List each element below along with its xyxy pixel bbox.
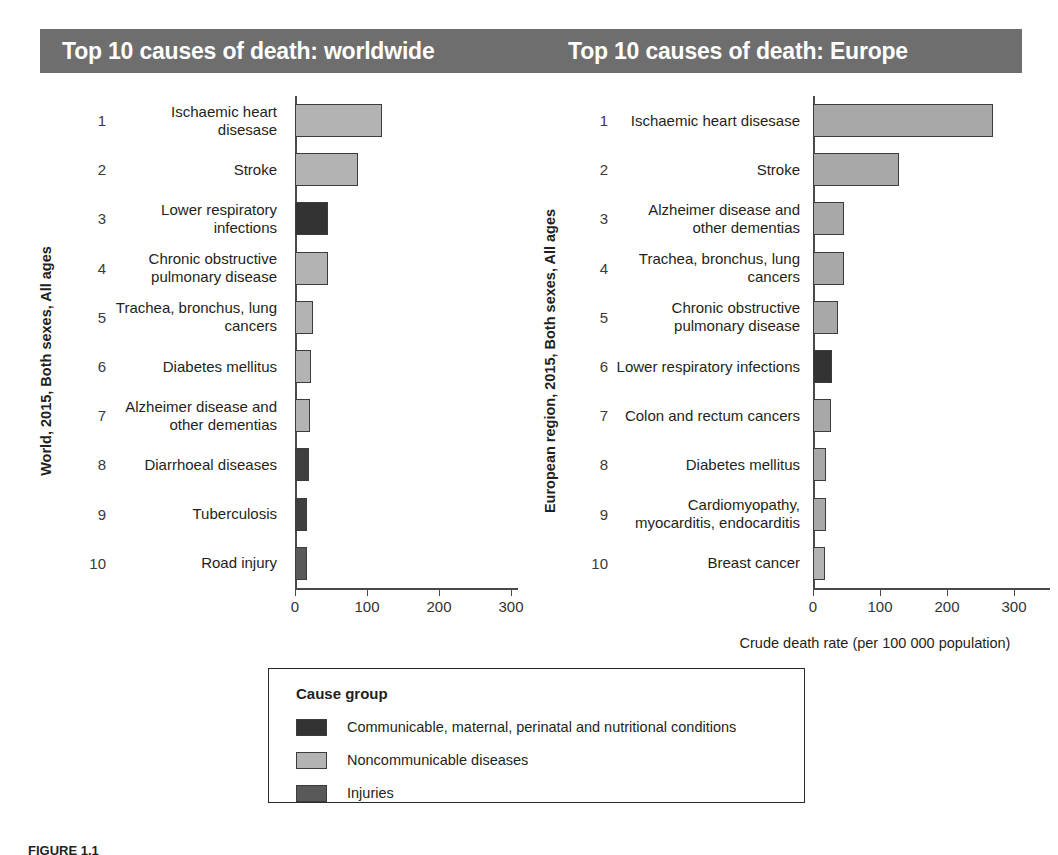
bar-row: 10Breast cancer <box>562 539 1050 588</box>
legend-title: Cause group <box>296 685 388 702</box>
bar-category-label: Alzheimer disease and other dementias <box>110 398 277 434</box>
plot-area-worldwide: 1Ischaemic heart disesase2Stroke3Lower r… <box>58 96 518 588</box>
x-axis-tick <box>439 588 440 596</box>
bar-container <box>295 194 518 243</box>
legend-entry[interactable]: Injuries <box>296 783 394 803</box>
x-axis-title: Crude death rate (per 100 000 population… <box>700 635 1050 651</box>
bar-row: 6Lower respiratory infections <box>562 342 1050 391</box>
bar-container <box>295 244 518 293</box>
legend-entry[interactable]: Noncommunicable diseases <box>296 750 528 770</box>
figure-caption-number: FIGURE 1.1 <box>28 843 99 855</box>
bar-container <box>295 391 518 440</box>
bar <box>295 104 382 137</box>
bar-category-label: Breast cancer <box>612 554 800 572</box>
bar-container <box>295 96 518 145</box>
bar <box>813 498 826 531</box>
bar-rank-label: 6 <box>582 358 608 375</box>
bar-row: 3Alzheimer disease and other dementias <box>562 194 1050 243</box>
bar-category-label: Cardiomyopathy, myocarditis, endocarditi… <box>612 496 800 532</box>
bar-row: 8Diarrhoeal diseases <box>58 440 518 489</box>
bar-rank-label: 1 <box>582 112 608 129</box>
legend-entry[interactable]: Communicable, maternal, perinatal and nu… <box>296 717 736 737</box>
bar-rank-label: 5 <box>80 309 106 326</box>
plot-area-europe: 1Ischaemic heart disesase2Stroke3Alzheim… <box>562 96 1050 588</box>
x-axis-tick-label: 0 <box>265 598 325 615</box>
legend-swatch-icon <box>296 752 327 769</box>
bar-rank-label: 1 <box>80 112 106 129</box>
bar-container <box>813 194 1050 243</box>
bar-row: 4Trachea, bronchus, lung cancers <box>562 244 1050 293</box>
bar-category-label: Lower respiratory infections <box>110 201 277 237</box>
x-axis-tick <box>880 588 881 596</box>
bar-rank-label: 8 <box>80 456 106 473</box>
x-axis-tick <box>511 588 512 596</box>
bar <box>295 350 311 383</box>
bar-category-label: Diabetes mellitus <box>612 456 800 474</box>
bar-container <box>295 490 518 539</box>
x-axis-tick <box>947 588 948 596</box>
bar-container <box>813 440 1050 489</box>
x-axis-tick-label: 100 <box>850 598 910 615</box>
x-axis-tick-label: 0 <box>783 598 843 615</box>
x-axis-tick-label: 300 <box>984 598 1044 615</box>
bar-row: 5Chronic obstructive pulmonary disease <box>562 293 1050 342</box>
bar-category-label: Trachea, bronchus, lung cancers <box>110 299 277 335</box>
bar-category-label: Stroke <box>612 161 800 179</box>
bar-rank-label: 9 <box>582 506 608 523</box>
bar-row: 2Stroke <box>58 145 518 194</box>
y-axis-title-worldwide: World, 2015, Both sexes, All ages <box>38 96 60 626</box>
bar-container <box>813 96 1050 145</box>
chart-panel-europe: European region, 2015, Both sexes, All a… <box>520 96 1050 626</box>
bar-row: 9Cardiomyopathy, myocarditis, endocardit… <box>562 490 1050 539</box>
figure-header-band: Top 10 causes of death: worldwide Top 10… <box>40 29 1022 73</box>
bar-container <box>813 293 1050 342</box>
bar-category-label: Alzheimer disease and other dementias <box>612 201 800 237</box>
bar-rank-label: 10 <box>582 555 608 572</box>
bar <box>813 547 825 580</box>
bar-row: 6Diabetes mellitus <box>58 342 518 391</box>
y-axis-title-europe: European region, 2015, Both sexes, All a… <box>542 96 564 626</box>
bar-row: 5Trachea, bronchus, lung cancers <box>58 293 518 342</box>
bar <box>295 498 307 531</box>
bar <box>295 301 313 334</box>
bar-rank-label: 5 <box>582 309 608 326</box>
bar-row: 1Ischaemic heart disesase <box>58 96 518 145</box>
bar <box>295 448 309 481</box>
bar <box>295 153 358 186</box>
bar-rank-label: 4 <box>582 260 608 277</box>
chart-title-worldwide: Top 10 causes of death: worldwide <box>62 29 435 73</box>
bar-rank-label: 7 <box>80 407 106 424</box>
bar-category-label: Trachea, bronchus, lung cancers <box>612 250 800 286</box>
legend-swatch-icon <box>296 785 327 802</box>
bar-container <box>813 391 1050 440</box>
bar <box>813 202 844 235</box>
bar <box>813 350 832 383</box>
bar-row: 10Road injury <box>58 539 518 588</box>
bar-row: 7Colon and rectum cancers <box>562 391 1050 440</box>
bar-category-label: Chronic obstructive pulmonary disease <box>110 250 277 286</box>
bar-row: 1Ischaemic heart disesase <box>562 96 1050 145</box>
bar <box>295 399 310 432</box>
bar-rank-label: 9 <box>80 506 106 523</box>
bar-rank-label: 6 <box>80 358 106 375</box>
x-axis-line <box>295 588 518 590</box>
bar <box>813 104 993 137</box>
bar-category-label: Tuberculosis <box>110 505 277 523</box>
legend-entry-label: Injuries <box>347 785 394 801</box>
x-axis-tick <box>1014 588 1015 596</box>
x-axis-tick <box>367 588 368 596</box>
bar-category-label: Diabetes mellitus <box>110 358 277 376</box>
bar-category-label: Ischaemic heart disesase <box>110 103 277 139</box>
bar-container <box>295 440 518 489</box>
legend-entry-label: Noncommunicable diseases <box>347 752 528 768</box>
bar-rank-label: 2 <box>582 161 608 178</box>
x-axis-tick-label: 200 <box>917 598 977 615</box>
bar <box>813 252 844 285</box>
bar-row: 4Chronic obstructive pulmonary disease <box>58 244 518 293</box>
chart-title-europe: Top 10 causes of death: Europe <box>568 29 908 73</box>
bar-rank-label: 3 <box>582 210 608 227</box>
legend-entry-label: Communicable, maternal, perinatal and nu… <box>347 719 736 735</box>
bar-category-label: Ischaemic heart disesase <box>612 112 800 130</box>
bar-rank-label: 8 <box>582 456 608 473</box>
bar-rank-label: 3 <box>80 210 106 227</box>
